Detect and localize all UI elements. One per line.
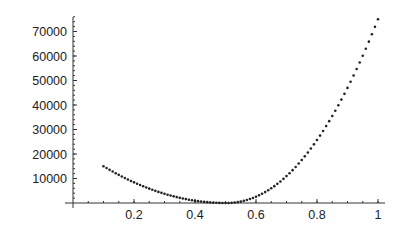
- y-axis: 10000200003000040000500006000070000: [32, 17, 77, 208]
- data-point: [145, 186, 148, 189]
- data-point: [142, 185, 145, 188]
- data-point: [313, 143, 316, 146]
- y-tick-label: 70000: [32, 25, 67, 39]
- data-point: [264, 191, 267, 194]
- data-point: [206, 201, 209, 204]
- data-point: [355, 68, 358, 71]
- data-point: [285, 175, 288, 178]
- data-point: [361, 54, 364, 57]
- data-point: [322, 130, 325, 133]
- data-point: [163, 193, 166, 196]
- data-point: [148, 187, 151, 190]
- data-point: [325, 125, 328, 128]
- data-point: [279, 180, 282, 183]
- data-point: [124, 177, 127, 180]
- data-point: [175, 196, 178, 199]
- data-point: [304, 155, 307, 158]
- y-tick-label: 40000: [32, 99, 67, 113]
- data-point: [243, 200, 246, 203]
- data-point: [282, 178, 285, 181]
- data-point: [197, 200, 200, 203]
- data-point: [297, 162, 300, 165]
- y-tick-label: 10000: [32, 172, 67, 186]
- data-point: [191, 199, 194, 202]
- data-point: [270, 187, 273, 190]
- data-point: [230, 201, 233, 204]
- data-point: [328, 120, 331, 123]
- data-point: [169, 194, 172, 197]
- y-tick-labels: 10000200003000040000500006000070000: [32, 25, 67, 186]
- y-tick-label: 30000: [32, 123, 67, 137]
- data-point: [294, 166, 297, 169]
- data-point: [377, 18, 380, 21]
- data-point: [209, 201, 212, 204]
- data-point: [215, 201, 218, 204]
- x-tick-label: 1: [375, 208, 382, 222]
- data-point: [224, 202, 227, 205]
- x-tick-label: 0.6: [247, 208, 264, 222]
- data-point: [117, 174, 120, 177]
- x-tick-label: 0.8: [308, 208, 325, 222]
- data-point: [136, 182, 139, 185]
- data-point: [300, 159, 303, 162]
- data-point: [255, 195, 258, 198]
- data-point: [276, 183, 279, 186]
- data-point: [218, 202, 221, 205]
- data-point: [182, 197, 185, 200]
- data-point: [371, 33, 374, 36]
- data-point: [203, 201, 206, 204]
- data-point: [374, 26, 377, 29]
- data-point: [154, 190, 157, 193]
- data-point: [108, 169, 111, 172]
- data-point: [288, 172, 291, 175]
- data-point: [133, 181, 136, 184]
- x-tick-labels: 0.20.40.60.81: [125, 208, 381, 222]
- data-point: [185, 198, 188, 201]
- data-point: [310, 147, 313, 150]
- y-tick-label: 60000: [32, 50, 67, 64]
- data-point: [200, 200, 203, 203]
- data-point: [349, 80, 352, 83]
- data-point: [291, 169, 294, 172]
- data-point: [352, 74, 355, 77]
- data-point: [368, 40, 371, 43]
- data-point: [194, 199, 197, 202]
- data-point: [343, 93, 346, 96]
- data-point: [307, 151, 310, 154]
- data-point: [252, 197, 255, 200]
- data-point: [102, 165, 105, 168]
- y-tick-label: 50000: [32, 74, 67, 88]
- data-point: [111, 170, 114, 173]
- data-point: [139, 184, 142, 187]
- data-point: [258, 194, 261, 197]
- data-point: [331, 115, 334, 118]
- x-major-ticks: [134, 199, 378, 203]
- data-point: [212, 201, 215, 204]
- x-tick-label: 0.2: [125, 208, 142, 222]
- data-point: [236, 201, 239, 204]
- data-point: [233, 201, 236, 204]
- y-major-ticks: [73, 32, 77, 179]
- data-point: [227, 202, 230, 205]
- data-point: [172, 195, 175, 198]
- data-point: [249, 198, 252, 201]
- data-point: [365, 47, 368, 50]
- data-point: [267, 189, 270, 192]
- data-point: [334, 109, 337, 112]
- data-point: [130, 180, 133, 183]
- data-point: [246, 199, 249, 202]
- y-tick-label: 20000: [32, 148, 67, 162]
- scatter-plot: 10000200003000040000500006000070000 0.20…: [0, 0, 401, 230]
- data-point: [261, 192, 264, 195]
- data-point: [114, 172, 117, 175]
- data-point: [188, 198, 191, 201]
- data-point: [319, 134, 322, 137]
- data-point: [157, 191, 160, 194]
- data-point: [160, 192, 163, 195]
- data-point: [127, 178, 130, 181]
- x-tick-label: 0.4: [186, 208, 203, 222]
- data-point: [346, 87, 349, 90]
- data-point: [105, 167, 108, 170]
- data-point: [340, 98, 343, 101]
- data-point: [121, 175, 124, 178]
